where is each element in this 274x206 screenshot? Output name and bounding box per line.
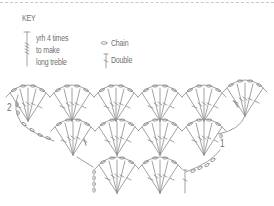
foundation-shells: [95, 157, 182, 193]
row-1-shells: [51, 119, 226, 155]
chain-icon: [101, 42, 107, 45]
long-treble-icon: [24, 32, 30, 66]
row-2-shells: [6, 80, 267, 121]
double-icon: [104, 54, 108, 68]
crochet-chart: [0, 0, 274, 206]
